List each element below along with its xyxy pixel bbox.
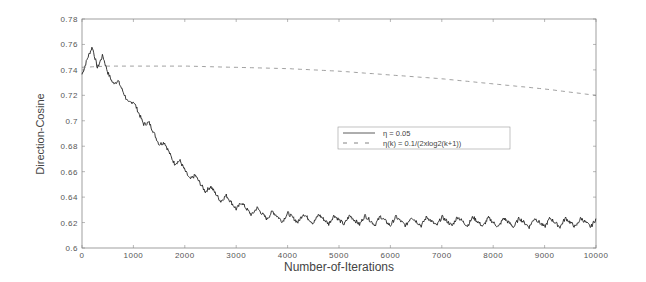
x-tick-label: 7000 [432,251,452,260]
y-axis-ticks: 0.60.620.640.660.680.70.720.740.760.78 [60,15,596,253]
y-tick-label: 0.7 [65,117,78,126]
series-line-1 [82,66,596,95]
x-tick-label: 9000 [535,251,555,260]
y-axis-label: Direction-Cosine [34,93,46,174]
y-tick-label: 0.62 [60,219,78,228]
x-tick-label: 0 [80,251,85,260]
y-tick-label: 0.76 [60,40,78,49]
legend-label-1: η(k) = 0.1/(2xlog2(k+1)) [383,139,462,148]
y-tick-label: 0.74 [60,66,78,75]
y-tick-label: 0.64 [60,193,78,202]
x-tick-label: 8000 [483,251,503,260]
legend: η = 0.05 η(k) = 0.1/(2xlog2(k+1)) [338,127,510,149]
y-tick-label: 0.68 [60,142,78,151]
legend-label-0: η = 0.05 [383,129,410,138]
x-tick-label: 5000 [329,251,349,260]
y-tick-label: 0.72 [60,91,78,100]
x-tick-label: 4000 [278,251,298,260]
y-tick-label: 0.66 [60,168,78,177]
line-chart: 0100020003000400050006000700080009000100… [0,0,646,282]
x-tick-label: 2000 [175,251,195,260]
y-tick-label: 0.78 [60,15,78,24]
x-tick-label: 3000 [226,251,246,260]
x-tick-label: 10000 [584,251,609,260]
x-tick-label: 1000 [124,251,144,260]
x-tick-label: 6000 [381,251,401,260]
y-tick-label: 0.6 [65,244,78,253]
x-axis-label: Number-of-Iterations [284,260,394,274]
